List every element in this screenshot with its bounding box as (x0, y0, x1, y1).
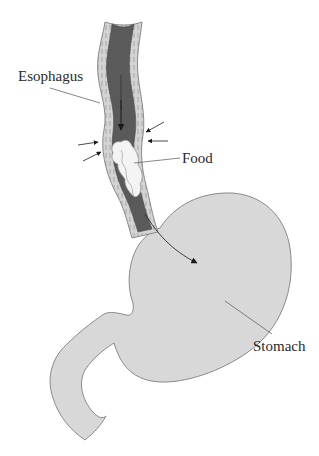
contraction-arrow-left-1-icon (78, 142, 98, 145)
esophagus-leader-line (50, 88, 100, 103)
stomach-label: Stomach (253, 339, 306, 354)
esophagus-label: Esophagus (18, 69, 83, 84)
food-label: Food (182, 151, 213, 166)
contraction-arrow-right-1-icon (146, 122, 164, 132)
contraction-arrow-left-2-icon (83, 152, 101, 161)
stomach-shape (50, 193, 291, 440)
